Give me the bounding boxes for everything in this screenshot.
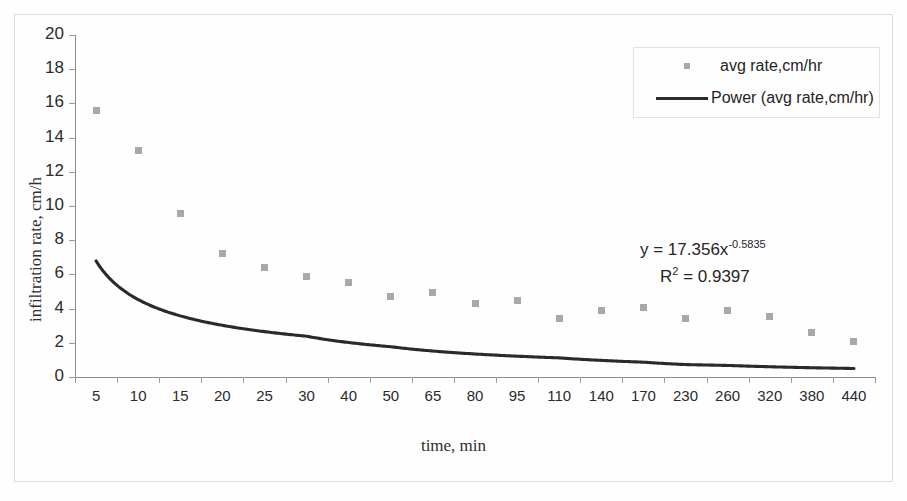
r-squared-value: = 0.9397 bbox=[678, 267, 749, 286]
x-axis-tick-label: 230 bbox=[665, 387, 707, 404]
legend-box: avg rate,cm/hr Power (avg rate,cm/hr) bbox=[633, 47, 880, 118]
legend-line-swatch-icon bbox=[656, 97, 708, 100]
x-axis-tick bbox=[412, 377, 413, 383]
x-axis-tick bbox=[370, 377, 371, 383]
y-axis-tick bbox=[69, 206, 75, 207]
x-axis-tick-label: 15 bbox=[159, 387, 201, 404]
y-axis-tick-label: 0 bbox=[20, 366, 64, 386]
r-squared-annotation: R2 = 0.9397 bbox=[660, 265, 750, 287]
data-point-marker bbox=[345, 279, 352, 286]
y-axis-tick bbox=[69, 274, 75, 275]
trendline-equation: y = 17.356x-0.5835 bbox=[640, 238, 766, 260]
data-point-marker bbox=[556, 315, 563, 322]
y-axis-tick-label: 2 bbox=[20, 332, 64, 352]
x-axis-tick-label: 170 bbox=[622, 387, 664, 404]
data-point-marker bbox=[808, 329, 815, 336]
x-axis-tick bbox=[243, 377, 244, 383]
x-axis-tick-label: 440 bbox=[833, 387, 875, 404]
chart-screenshot: 02468101214161820 5101520253040506580951… bbox=[0, 0, 907, 501]
y-axis-title: infiltration rate, cm/h bbox=[26, 177, 46, 322]
data-point-marker bbox=[219, 250, 226, 257]
data-point-marker bbox=[850, 338, 857, 345]
y-axis-tick bbox=[69, 103, 75, 104]
y-axis-tick-label: 14 bbox=[20, 127, 64, 147]
data-point-marker bbox=[93, 107, 100, 114]
x-axis-tick-label: 80 bbox=[454, 387, 496, 404]
x-axis-tick-label: 25 bbox=[243, 387, 285, 404]
x-axis-tick bbox=[117, 377, 118, 383]
data-point-marker bbox=[514, 297, 521, 304]
y-axis-tick bbox=[69, 309, 75, 310]
x-axis-tick bbox=[580, 377, 581, 383]
x-axis-tick-label: 50 bbox=[370, 387, 412, 404]
data-point-marker bbox=[135, 147, 142, 154]
x-axis-tick-label: 65 bbox=[412, 387, 454, 404]
x-axis-tick-label: 10 bbox=[117, 387, 159, 404]
data-point-marker bbox=[472, 300, 479, 307]
legend-square-marker-icon bbox=[684, 63, 690, 69]
x-axis-tick-label: 30 bbox=[286, 387, 328, 404]
x-axis-tick-label: 5 bbox=[75, 387, 117, 404]
data-point-marker bbox=[261, 264, 268, 271]
data-point-marker bbox=[682, 315, 689, 322]
x-axis-tick-label: 20 bbox=[201, 387, 243, 404]
x-axis-tick-label: 260 bbox=[707, 387, 749, 404]
data-point-marker bbox=[766, 313, 773, 320]
data-point-marker bbox=[303, 273, 310, 280]
data-point-marker bbox=[387, 293, 394, 300]
x-axis-tick-label: 110 bbox=[538, 387, 580, 404]
x-axis-tick bbox=[496, 377, 497, 383]
y-axis-tick-label: 20 bbox=[20, 24, 64, 44]
x-axis-tick bbox=[201, 377, 202, 383]
data-point-marker bbox=[177, 210, 184, 217]
x-axis-tick-label: 95 bbox=[496, 387, 538, 404]
x-axis-tick bbox=[749, 377, 750, 383]
y-axis-tick-label: 18 bbox=[20, 58, 64, 78]
x-axis-line bbox=[75, 377, 876, 378]
equation-exponent: -0.5835 bbox=[728, 238, 765, 250]
x-axis-tick-label: 380 bbox=[791, 387, 833, 404]
legend-item-avg-rate: avg rate,cm/hr bbox=[634, 51, 881, 81]
data-point-marker bbox=[598, 307, 605, 314]
legend-label-power-fit: Power (avg rate,cm/hr) bbox=[711, 89, 874, 107]
equation-base: y = 17.356x bbox=[640, 240, 728, 259]
r-squared-symbol: R bbox=[660, 267, 672, 286]
y-axis-tick bbox=[69, 172, 75, 173]
y-axis-tick bbox=[69, 69, 75, 70]
x-axis-tick bbox=[286, 377, 287, 383]
data-point-marker bbox=[429, 289, 436, 296]
x-axis-tick bbox=[707, 377, 708, 383]
x-axis-tick bbox=[538, 377, 539, 383]
y-axis-line bbox=[75, 35, 76, 378]
x-axis-tick bbox=[454, 377, 455, 383]
x-axis-tick bbox=[664, 377, 665, 383]
x-axis-tick bbox=[328, 377, 329, 383]
x-axis-tick-label: 40 bbox=[328, 387, 370, 404]
y-axis-tick bbox=[69, 343, 75, 344]
x-axis-tick-label: 140 bbox=[580, 387, 622, 404]
x-axis-tick bbox=[875, 377, 876, 383]
data-point-marker bbox=[724, 307, 731, 314]
y-axis-tick bbox=[69, 138, 75, 139]
x-axis-tick bbox=[833, 377, 834, 383]
legend-label-avg-rate: avg rate,cm/hr bbox=[720, 57, 822, 75]
legend-item-power-fit: Power (avg rate,cm/hr) bbox=[634, 83, 881, 113]
x-axis-title: time, min bbox=[0, 436, 907, 456]
y-axis-tick bbox=[69, 35, 75, 36]
data-point-marker bbox=[640, 304, 647, 311]
x-axis-tick bbox=[622, 377, 623, 383]
y-axis-tick bbox=[69, 240, 75, 241]
y-axis-tick-label: 16 bbox=[20, 92, 64, 112]
x-axis-tick bbox=[791, 377, 792, 383]
x-axis-tick-label: 320 bbox=[749, 387, 791, 404]
x-axis-tick bbox=[159, 377, 160, 383]
x-axis-tick bbox=[75, 377, 76, 383]
